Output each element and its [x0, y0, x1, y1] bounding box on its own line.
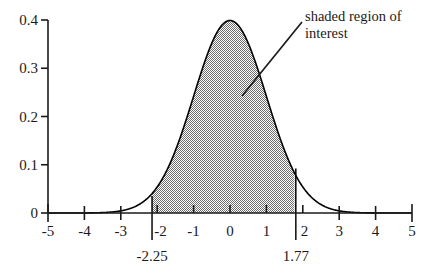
x-tick-label-neg5: -5 [42, 224, 55, 239]
boundary-marker-lines [152, 213, 296, 240]
annotation-line-2: interest [305, 25, 429, 42]
annotation-label: shaded region of interest [305, 8, 429, 42]
normal-distribution-figure: 0.4 0.3 0.2 0.1 0 -5 -4 -3 -2 -1 0 1 2 3… [0, 0, 429, 274]
boundary-label-lower: -2.25 [136, 248, 167, 264]
y-tick-label-0-4: 0.4 [6, 13, 38, 28]
x-tick-label-neg4: -4 [78, 224, 91, 239]
x-tick-label-neg1: -1 [187, 224, 200, 239]
x-tick-label-3: 3 [335, 224, 343, 239]
y-tick-label-0-2: 0.2 [6, 109, 38, 124]
boundary-label-upper: 1.77 [283, 248, 309, 264]
y-tick-label-0-3: 0.3 [6, 61, 38, 76]
x-tick-label-2: 2 [301, 224, 309, 239]
y-tick-label-0: 0 [6, 206, 38, 221]
y-tick-label-0-1: 0.1 [6, 157, 38, 172]
x-tick-label-neg3: -3 [115, 224, 128, 239]
x-tick-label-neg2: -2 [154, 224, 167, 239]
x-tick-label-1: 1 [263, 224, 271, 239]
x-tick-label-5: 5 [408, 224, 416, 239]
annotation-line-1: shaded region of [305, 8, 429, 25]
x-tick-label-0: 0 [226, 224, 234, 239]
y-axis-ticks [41, 20, 48, 213]
x-tick-label-4: 4 [372, 224, 380, 239]
